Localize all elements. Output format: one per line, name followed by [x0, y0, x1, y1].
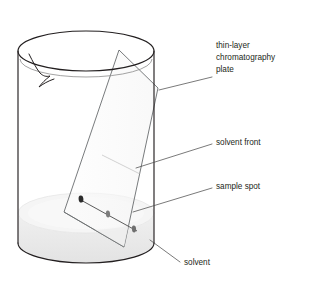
tlc-beaker-diagram: thin-layer chromatography plate solvent … — [0, 0, 310, 287]
label-plate-line3: plate — [216, 65, 234, 74]
label-solvent: solvent — [184, 258, 211, 267]
labels: thin-layer chromatography plate solvent … — [184, 41, 276, 267]
label-plate-line2: chromatography — [216, 53, 276, 62]
label-solvent-front: solvent front — [216, 138, 261, 147]
label-plate-line1: thin-layer — [216, 41, 250, 50]
leader-line-plate — [159, 77, 212, 90]
label-sample-spot: sample spot — [216, 182, 261, 191]
leader-line-solvent — [150, 240, 180, 262]
